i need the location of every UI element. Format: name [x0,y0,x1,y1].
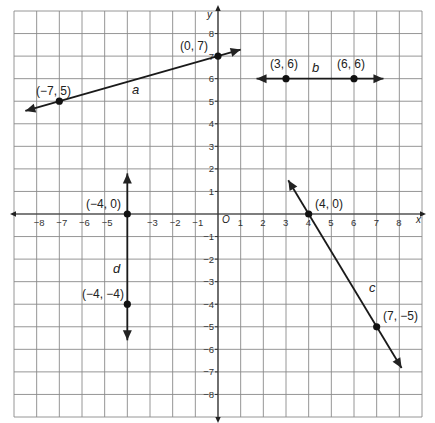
x-tick-label: 5 [328,217,333,228]
point-c [305,210,312,217]
y-tick-label: −1 [203,231,214,242]
y-tick-label: 6 [209,73,214,84]
point-label-c2: (7, −5) [383,309,418,323]
arrowhead-icon [257,74,267,83]
y-tick-label: −4 [203,299,214,310]
line-b-label: b [312,60,319,75]
point-d [124,301,131,308]
line-c [288,180,401,368]
x-tick-label: −6 [79,217,90,228]
arrowhead-icon [123,330,132,340]
point-label-c1: (4, 0) [315,197,343,211]
arrowhead-icon [288,180,297,191]
y-tick-label: −7 [203,366,214,377]
y-tick-label: 7 [209,51,214,62]
y-tick-label: 4 [209,118,214,129]
y-tick-label: 2 [209,163,214,174]
point-label-a2: (0, 7) [180,39,208,53]
origin-label: O [222,214,230,225]
y-tick-label: −5 [203,321,214,332]
point-a [56,98,63,105]
point-label-b1: (3, 6) [270,57,298,71]
point-b [350,75,357,82]
y-axis-arrow-icon [215,5,220,11]
y-tick-label: 1 [209,186,214,197]
x-tick-label: −3 [147,217,158,228]
x-tick-label: 7 [374,217,379,228]
x-tick-label: −5 [102,217,113,228]
x-axis-label: x [415,214,422,225]
point-a [214,53,221,60]
y-tick-label: 3 [209,141,214,152]
line-c-label: c [369,280,376,295]
arrowhead-icon [373,74,383,83]
x-tick-label: −1 [192,217,203,228]
x-tick-label: −2 [170,217,181,228]
point-c [373,323,380,330]
x-tick-label: 8 [396,217,401,228]
point-d [124,210,131,217]
point-label-d1: (−4, 0) [86,197,121,211]
point-label-b2: (6, 6) [337,57,365,71]
y-tick-label: 8 [209,28,214,39]
arrowhead-icon [123,173,132,183]
coordinate-plane: −8−7−6−5−3−2−11234567887654321−1−2−3−4−5… [0,0,435,423]
y-tick-label: −2 [203,254,214,265]
y-tick-label: −3 [203,276,214,287]
x-tick-label: 2 [260,217,265,228]
point-label-d2: (−4, −4) [82,287,124,301]
line-d-label: d [113,261,121,276]
y-axis-label: y [206,9,213,20]
line-a-label: a [132,82,139,97]
x-axis-arrow-icon [10,211,16,216]
x-tick-label: −7 [56,217,67,228]
x-tick-label: 6 [351,217,356,228]
y-tick-label: −8 [203,389,214,400]
x-tick-label: 4 [306,217,311,228]
y-tick-label: −6 [203,344,214,355]
x-tick-label: −8 [34,217,45,228]
y-tick-label: 5 [209,96,214,107]
arrowhead-icon [393,357,402,368]
y-axis-arrow-icon [215,417,220,423]
x-tick-label: 1 [238,217,243,228]
point-b [282,75,289,82]
x-tick-label: 3 [283,217,288,228]
point-label-a1: (−7, 5) [36,84,71,98]
